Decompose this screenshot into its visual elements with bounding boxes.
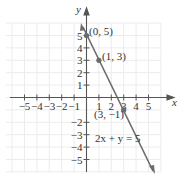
y-axis-arrow-icon — [84, 8, 89, 15]
point-label-3-neg1: (3, −1) — [94, 108, 124, 121]
coordinate-plane: x y −5−4−3−2−112345 54321−2−3−4−5 (0, 5)… — [0, 0, 184, 178]
line-2x-plus-y-eq-5 — [83, 27, 153, 171]
y-tick-label: 5 — [77, 30, 83, 42]
y-tick-label: 1 — [77, 79, 83, 91]
x-tick-label: 5 — [146, 100, 152, 112]
x-tick-label: 4 — [133, 100, 139, 112]
y-tick-label: 2 — [77, 67, 83, 79]
y-axis-label: y — [75, 3, 81, 15]
point-label-1-3: (1, 3) — [102, 50, 126, 63]
y-tick-label: −5 — [71, 154, 83, 166]
y-tick-label: 4 — [77, 42, 83, 54]
y-tick-label: −4 — [71, 141, 83, 153]
x-tick-label: −1 — [68, 100, 80, 112]
x-tick-label: −5 — [19, 100, 31, 112]
line-arrow-end-icon — [149, 165, 155, 174]
x-tick-label: −4 — [31, 100, 43, 112]
equation-label: 2x + y = 5 — [95, 132, 141, 144]
x-tick-label: −2 — [56, 100, 68, 112]
point-label-0-5: (0, 5) — [89, 25, 113, 38]
y-tick-label: 3 — [77, 54, 83, 66]
x-tick-label: −3 — [43, 100, 55, 112]
point-1-3 — [96, 58, 101, 63]
y-tick-label: −3 — [71, 129, 83, 141]
line-arrow-start-icon — [80, 23, 85, 31]
x-axis-label: x — [171, 96, 177, 108]
y-tick-label: −2 — [71, 116, 83, 128]
